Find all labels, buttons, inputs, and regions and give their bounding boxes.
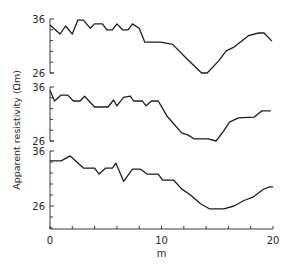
x-tick-0: 0 <box>47 235 53 246</box>
top-panel-tick-36: 36 <box>32 14 45 25</box>
bottom-panel-tick-36: 36 <box>32 146 45 157</box>
bottom-panel-y-axis <box>50 151 54 229</box>
x-axis <box>50 226 273 229</box>
top-profile-line <box>50 20 272 73</box>
bottom-panel-tick-26: 26 <box>32 201 45 212</box>
bottom-profile-line <box>50 156 273 209</box>
y-axis-title: Apparent resistivity (Ωm) <box>11 70 22 190</box>
x-tick-10: 10 <box>155 235 168 246</box>
x-tick-20: 20 <box>267 235 280 246</box>
middle-panel-tick-36: 36 <box>32 82 45 93</box>
middle-profile-line <box>50 90 271 141</box>
resistivity-profile-chart: Apparent resistivity (Ωm) 36 26 36 26 36… <box>0 0 292 267</box>
x-axis-title: m <box>157 248 167 259</box>
top-panel-tick-26: 26 <box>32 68 45 79</box>
